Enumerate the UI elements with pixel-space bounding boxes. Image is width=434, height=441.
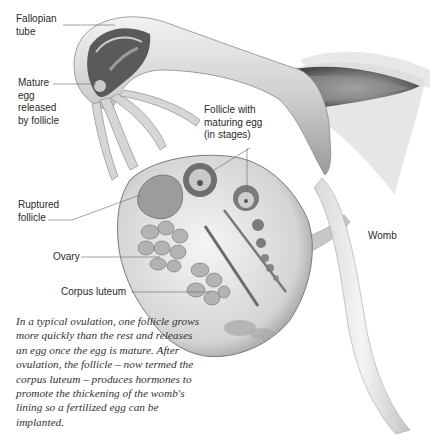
label-follicle-maturing-egg: Follicle with maturing egg (in stages) (204, 104, 262, 142)
label-corpus-luteum: Corpus luteum (61, 286, 126, 299)
label-ovary: Ovary (53, 251, 80, 264)
caption-text: In a typical ovulation, one follicle gro… (16, 314, 206, 429)
label-fallopian-tube: Fallopian tube (16, 13, 57, 38)
label-mature-egg: Mature egg released by follicle (18, 77, 59, 127)
label-womb: Womb (368, 230, 397, 243)
label-ruptured-follicle: Ruptured follicle (18, 199, 59, 224)
fallopian-tube (74, 17, 331, 175)
womb-wall (314, 178, 410, 434)
